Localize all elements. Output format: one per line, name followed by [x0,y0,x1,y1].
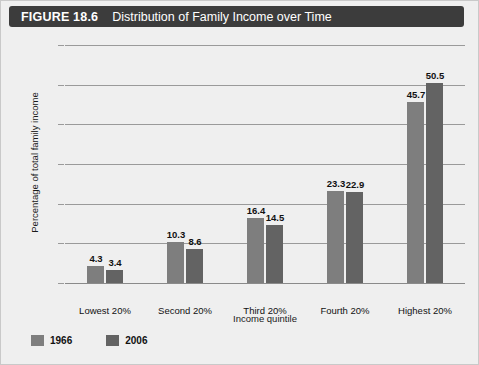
legend-label: 1966 [50,335,72,346]
legend-item[interactable]: 2006 [106,335,147,346]
y-tick-mark [58,124,64,125]
gridline [65,283,465,284]
bar-group: 10.38.6 [167,45,203,283]
legend-swatch [106,335,119,346]
figure-title-label: Distribution of Family Income over Time [112,10,332,24]
bar[interactable] [247,218,264,283]
x-axis-title: Income quintile [65,313,465,324]
bar-value-label: 3.4 [98,257,132,268]
bar[interactable] [327,191,344,283]
legend-item[interactable]: 1966 [31,335,72,346]
bar[interactable] [407,102,424,283]
bar[interactable] [106,270,123,283]
chart-legend: 19662006 [31,335,182,346]
bar-group: 23.322.9 [327,45,363,283]
bar[interactable] [266,225,283,283]
y-tick-mark [58,85,64,86]
bar[interactable] [346,192,363,283]
figure-container: FIGURE 18.6 Distribution of Family Incom… [0,0,479,365]
bar[interactable] [167,242,184,283]
y-tick-mark [58,45,64,46]
chart-area: Percentage of total family income 010203… [1,29,479,365]
bar[interactable] [87,266,104,283]
bar-value-label: 8.6 [178,236,212,247]
bar[interactable] [426,83,443,283]
bar-value-label: 14.5 [258,212,292,223]
legend-swatch [31,335,44,346]
plot-region: 01020304050604.33.4Lowest 20%10.38.6Seco… [65,45,465,283]
y-tick-mark [58,204,64,205]
y-tick-mark [58,283,64,284]
bar-group: 4.33.4 [87,45,123,283]
y-tick-mark [58,164,64,165]
y-axis-title: Percentage of total family income [29,63,40,263]
bar[interactable] [186,249,203,283]
figure-header-bar: FIGURE 18.6 Distribution of Family Incom… [9,6,464,27]
bar-value-label: 50.5 [418,70,452,81]
figure-number-label: FIGURE 18.6 [21,10,98,24]
legend-label: 2006 [125,335,147,346]
bar-value-label: 22.9 [338,179,372,190]
bar-group: 16.414.5 [247,45,283,283]
bar-group: 45.750.5 [407,45,443,283]
y-tick-mark [58,243,64,244]
